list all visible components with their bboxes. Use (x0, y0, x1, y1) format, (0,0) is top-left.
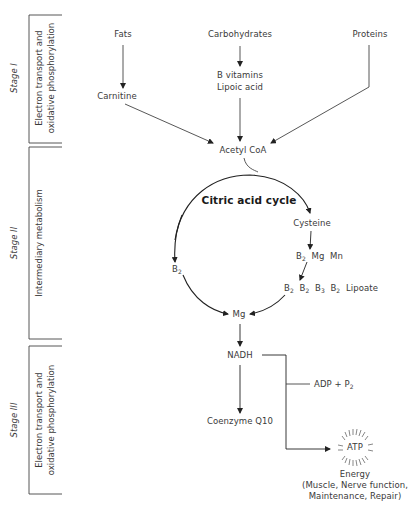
stage-1-name: Stage I (8, 63, 20, 93)
node-proteins: Proteins (352, 29, 387, 39)
node-energy: Energy (340, 469, 370, 479)
node-energy-detail-1: (Muscle, Nerve function, (302, 480, 408, 490)
node-left-b2: B2 (172, 264, 182, 275)
node-coenzyme-q10: Coenzyme Q10 (207, 416, 273, 426)
node-carbohydrates: Carbohydrates (208, 29, 272, 39)
node-cysteine: Cysteine (293, 218, 331, 228)
node-adp-p2: ADP + P2 (314, 379, 354, 390)
stage-3-name: Stage III (8, 403, 20, 438)
node-lipoic-acid: Lipoic acid (217, 82, 263, 92)
node-energy-detail-2: Maintenance, Repair) (309, 491, 402, 501)
node-atp: ATP (347, 442, 363, 452)
stage-1-description: Electron transport and oxidative phospho… (33, 23, 57, 133)
node-b2-mg-mn: B2 Mg Mn (296, 251, 343, 262)
node-carnitine: Carnitine (97, 91, 136, 101)
stage-2-description: Intermediary metabolism (33, 189, 45, 297)
cycle-title: Citric acid cycle (202, 194, 297, 206)
node-b-vitamins: B vitamins (217, 70, 263, 80)
node-acetyl-coa: Acetyl CoA (220, 145, 267, 155)
node-fats: Fats (114, 29, 131, 39)
diagram-connectors (0, 0, 416, 512)
node-b-vitamins-lipoate: B2 B2 B3 B2 Lipoate (284, 283, 378, 294)
stage-2-name: Stage II (8, 227, 20, 259)
node-nadh: NADH (227, 350, 253, 360)
node-mg: Mg (233, 309, 246, 319)
stage-3-description: Electron transport and oxidative phospho… (33, 365, 57, 475)
